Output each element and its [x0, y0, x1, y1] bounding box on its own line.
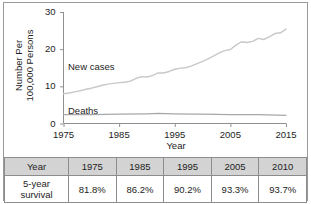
survival-table: Year 1975 1985 1995 2005 2010 5-year sur…: [4, 157, 307, 203]
table-header-col-4: 2010: [259, 158, 307, 176]
y-tick-label-0: 0: [32, 118, 56, 129]
table-header-col-2: 1995: [164, 158, 212, 176]
x-axis-title: Year: [148, 140, 204, 151]
table-row-label-line-1: 5-year: [5, 178, 68, 189]
x-tick-label-1975: 1975: [46, 129, 82, 140]
table-header-row: Year 1975 1985 1995 2005 2010: [5, 158, 307, 176]
table-header-year: Year: [5, 158, 69, 176]
figure-container: Number Per 100,000 Persons Year 0102030 …: [0, 0, 311, 204]
x-tick-label-2015: 2015: [268, 129, 304, 140]
table-row-label-line-2: survival: [5, 189, 68, 200]
y-tick-label-10: 10: [32, 80, 56, 91]
x-tick-label-1985: 1985: [101, 129, 137, 140]
chart-series-group: [64, 29, 287, 115]
x-tick-label-2005: 2005: [212, 129, 248, 140]
table-cell-survival-1: 86.2%: [116, 176, 164, 203]
y-tick-marks: [60, 13, 64, 125]
table-cell-survival-3: 93.3%: [211, 176, 259, 203]
table-cell-survival-0: 81.8%: [69, 176, 117, 203]
line-chart: Number Per 100,000 Persons Year 0102030 …: [0, 0, 311, 155]
y-tick-label-30: 30: [32, 6, 56, 17]
y-axis-title-line-2: 100,000 Persons: [24, 11, 35, 121]
series-label-new-cases: New cases: [68, 61, 114, 72]
series-label-deaths: Deaths: [68, 105, 98, 116]
table-header-col-3: 2005: [211, 158, 259, 176]
y-axis-title-line-1: Number Per: [14, 11, 25, 121]
x-tick-marks: [64, 124, 287, 128]
table-header-col-1: 1985: [116, 158, 164, 176]
table-header-col-0: 1975: [69, 158, 117, 176]
table-row: 5-year survival 81.8% 86.2% 90.2% 93.3% …: [5, 176, 307, 203]
y-axis-title: Number Per 100,000 Persons: [14, 11, 35, 121]
table-row-label: 5-year survival: [5, 176, 69, 203]
table-cell-survival-2: 90.2%: [164, 176, 212, 203]
table-cell-survival-4: 93.7%: [259, 176, 307, 203]
x-tick-label-1995: 1995: [157, 129, 193, 140]
y-tick-label-20: 20: [32, 43, 56, 54]
